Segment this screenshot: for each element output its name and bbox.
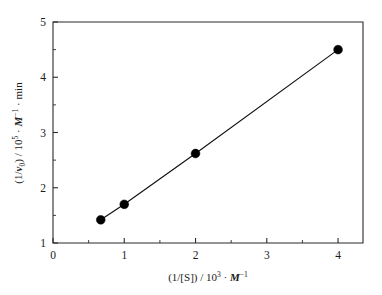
y-tick-label-3: 3 [40,127,46,139]
y-axis-major-ticks [53,22,58,243]
chart-figure: 01234 12345 (1/[S]) / 103 · M−1 (1/v0) /… [0,0,382,295]
x-axis-major-ticks [53,238,338,243]
x-tick-label-0: 0 [50,249,56,261]
x-axis-title: (1/[S]) / 103 · M−1 [168,270,248,284]
data-point [96,215,105,224]
chart-canvas: 01234 12345 (1/[S]) / 103 · M−1 (1/v0) /… [0,0,382,295]
data-point [191,149,200,158]
y-tick-label-4: 4 [40,71,46,83]
data-point [120,200,129,209]
y-axis-title: (1/v0) / 105 · M−1 · min [11,82,27,184]
series-line [101,50,338,220]
y-axis-tick-labels: 12345 [40,16,46,249]
x-tick-label-2: 2 [193,249,199,261]
x-tick-label-4: 4 [335,249,341,261]
x-axis-tick-labels: 01234 [50,249,341,261]
x-tick-label-1: 1 [121,249,127,261]
data-point [334,45,343,54]
axis-frame-path [53,22,363,243]
data-series [96,45,342,224]
axis-frame [53,22,363,243]
x-tick-label-3: 3 [264,249,270,261]
y-tick-label-1: 1 [40,237,46,249]
y-tick-label-5: 5 [40,16,46,28]
y-tick-label-2: 2 [40,182,46,194]
